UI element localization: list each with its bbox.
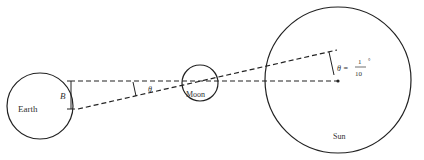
- sun-angle-denominator: 10: [355, 70, 363, 78]
- sun-angle-numerator: 1: [358, 58, 362, 66]
- sun-angle-degree: °: [368, 58, 371, 64]
- earth-circle: [7, 73, 73, 139]
- sun-angle-lhs: θ =: [337, 64, 348, 73]
- angle-marker: [133, 82, 136, 96]
- slanted-sightline: [78, 50, 337, 109]
- angle-label: θ: [148, 85, 152, 94]
- baseline-label: B: [60, 91, 66, 101]
- sun-center-dot: [336, 79, 339, 82]
- sun-angle-marker: [329, 52, 334, 75]
- sun-label: Sun: [333, 132, 345, 141]
- moon-label: Moon: [186, 90, 205, 99]
- earth-label: Earth: [18, 104, 38, 114]
- parallax-diagram: Earth B θ Moon Sun θ = 1 10 °: [0, 0, 424, 160]
